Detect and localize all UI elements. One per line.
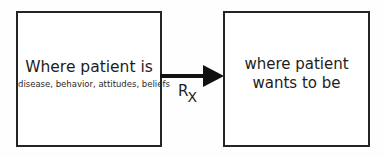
- arrow-head-icon: [203, 65, 224, 87]
- node-current-state: Where patient is disease, behavior, atti…: [16, 11, 162, 147]
- node-goal-state-title: where patient wants to be: [225, 55, 368, 93]
- node-current-state-title: Where patient is: [18, 58, 160, 76]
- node-goal-state-content: where patient wants to be: [225, 55, 368, 93]
- arrow-shaft: [160, 74, 206, 78]
- node-current-state-content: Where patient is disease, behavior, atti…: [18, 58, 160, 90]
- diagram-canvas: Where patient is disease, behavior, atti…: [0, 0, 385, 156]
- node-current-state-subtitle: disease, behavior, attitudes, beliefs: [18, 78, 160, 90]
- rx-label: RX: [178, 84, 198, 99]
- node-goal-state: where patient wants to be: [223, 11, 370, 147]
- node-goal-state-title-line1: where patient: [225, 55, 368, 74]
- rx-label-x: X: [187, 89, 197, 105]
- node-goal-state-title-line2: wants to be: [225, 74, 368, 93]
